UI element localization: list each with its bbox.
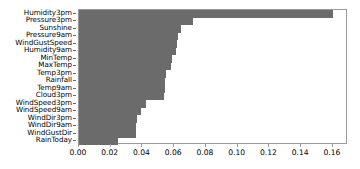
- bar-fill: [79, 25, 181, 33]
- x-tick-label-0.16: 0.16: [323, 148, 340, 157]
- bar-humidity3pm: [79, 10, 348, 18]
- bar-fill: [79, 123, 136, 131]
- y-tick-mark: [73, 118, 76, 119]
- bar-cloud3pm: [79, 93, 348, 101]
- y-tick-mark: [73, 125, 76, 126]
- bars-layer: [79, 10, 346, 143]
- bar-fill: [79, 108, 141, 116]
- bar-fill: [79, 130, 136, 138]
- y-tick-label-rainfall: Rainfall: [46, 76, 72, 84]
- x-tick-mark: [173, 144, 174, 147]
- y-tick-mark: [73, 65, 76, 66]
- bar-winddir3pm: [79, 115, 348, 123]
- bar-winddir9am: [79, 123, 348, 131]
- bar-fill: [79, 93, 164, 101]
- y-tick-label-windspeed9am: WindSpeed9am: [16, 106, 72, 114]
- bar-mintemp: [79, 55, 348, 63]
- bar-pressure9am: [79, 33, 348, 41]
- y-tick-mark: [73, 73, 76, 74]
- bar-fill: [79, 18, 193, 26]
- y-tick-mark: [73, 80, 76, 81]
- x-tick-mark: [110, 144, 111, 147]
- y-tick-label-windspeed3pm: WindSpeed3pm: [16, 99, 72, 107]
- bar-maxtemp: [79, 63, 348, 71]
- x-tick-label-0.00: 0.00: [70, 148, 87, 157]
- y-tick-label-mintemp: MinTemp: [40, 54, 72, 62]
- y-tick-label-humidity9am: Humidity9am: [24, 46, 72, 54]
- y-tick-label-sunshine: Sunshine: [39, 24, 72, 32]
- y-tick-label-raintoday: RainToday: [36, 136, 72, 144]
- x-axis-ticks: 0.000.020.040.060.080.100.120.140.16: [78, 144, 347, 169]
- x-tick-label-0.10: 0.10: [228, 148, 245, 157]
- y-tick-label-maxtemp: MaxTemp: [38, 61, 72, 69]
- y-tick-mark: [73, 140, 76, 141]
- y-tick-label-temp3pm: Temp3pm: [37, 69, 72, 77]
- bar-fill: [79, 100, 146, 108]
- y-tick-label-pressure3pm: Pressure3pm: [26, 16, 72, 24]
- y-tick-mark: [73, 50, 76, 51]
- x-tick-mark: [268, 144, 269, 147]
- bar-rainfall: [79, 78, 348, 86]
- x-tick-mark: [300, 144, 301, 147]
- bar-windgustdir: [79, 130, 348, 138]
- plot-area: [78, 9, 347, 144]
- y-tick-label-winddir3pm: WindDir3pm: [28, 114, 72, 122]
- y-tick-mark: [73, 28, 76, 29]
- bar-fill: [79, 63, 171, 71]
- bar-sunshine: [79, 25, 348, 33]
- x-tick-label-0.08: 0.08: [196, 148, 213, 157]
- x-tick-label-0.06: 0.06: [165, 148, 182, 157]
- y-tick-label-temp9am: Temp9am: [37, 84, 72, 92]
- bar-windgustspeed: [79, 40, 348, 48]
- bar-fill: [79, 48, 176, 56]
- bar-windspeed9am: [79, 108, 348, 116]
- y-tick-label-pressure9am: Pressure9am: [26, 31, 72, 39]
- bar-fill: [79, 40, 177, 48]
- y-tick-label-windgustdir: WindGustDir: [27, 129, 72, 137]
- y-tick-mark: [73, 103, 76, 104]
- y-tick-mark: [73, 35, 76, 36]
- bar-fill: [79, 55, 172, 63]
- x-tick-mark: [332, 144, 333, 147]
- x-tick-mark: [141, 144, 142, 147]
- bar-fill: [79, 33, 178, 41]
- bar-fill: [79, 10, 333, 18]
- y-axis-tick-labels: RainTodayWindGustDirWindDir9amWindDir3pm…: [0, 9, 76, 144]
- y-tick-mark: [73, 20, 76, 21]
- x-tick-label-0.04: 0.04: [133, 148, 150, 157]
- y-tick-mark: [73, 95, 76, 96]
- x-tick-label-0.02: 0.02: [101, 148, 118, 157]
- y-tick-mark: [73, 58, 76, 59]
- y-tick-mark: [73, 133, 76, 134]
- y-tick-mark: [73, 13, 76, 14]
- bar-temp9am: [79, 85, 348, 93]
- bar-fill: [79, 70, 166, 78]
- bar-humidity9am: [79, 48, 348, 56]
- x-tick-mark: [205, 144, 206, 147]
- y-tick-mark: [73, 43, 76, 44]
- bar-pressure3pm: [79, 18, 348, 26]
- y-tick-mark: [73, 110, 76, 111]
- bar-temp3pm: [79, 70, 348, 78]
- bar-fill: [79, 85, 165, 93]
- y-tick-label-humidity3pm: Humidity3pm: [24, 9, 72, 17]
- x-tick-mark: [237, 144, 238, 147]
- y-tick-label-cloud3pm: Cloud3pm: [36, 91, 72, 99]
- feature-importance-bar-chart: RainTodayWindGustDirWindDir9amWindDir3pm…: [0, 0, 360, 169]
- bar-windspeed3pm: [79, 100, 348, 108]
- x-tick-label-0.14: 0.14: [292, 148, 309, 157]
- bar-fill: [79, 78, 165, 86]
- y-tick-label-winddir9am: WindDir9am: [28, 121, 72, 129]
- x-tick-label-0.12: 0.12: [260, 148, 277, 157]
- y-tick-label-windgustspeed: WindGustSpeed: [15, 39, 72, 47]
- bar-fill: [79, 115, 137, 123]
- y-tick-mark: [73, 88, 76, 89]
- x-tick-mark: [78, 144, 79, 147]
